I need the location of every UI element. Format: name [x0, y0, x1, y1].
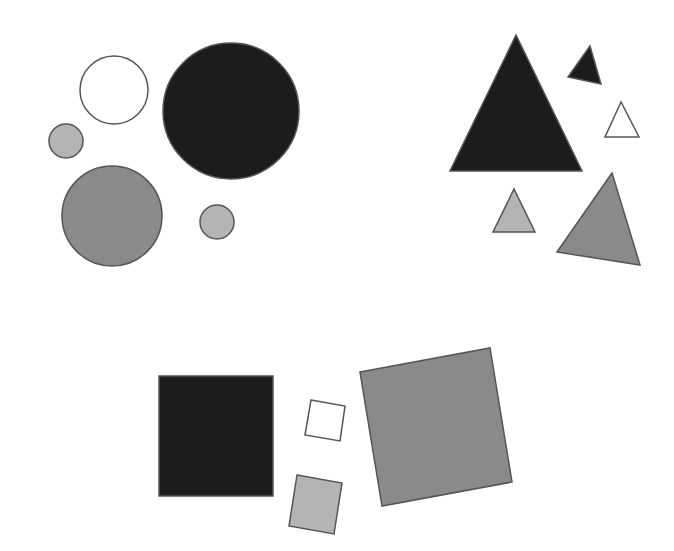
gray-square-shape [360, 348, 512, 506]
white-circle-shape [80, 56, 148, 124]
black-circle-shape [163, 43, 299, 179]
black-square-shape [159, 376, 273, 496]
white-square-shape [305, 400, 345, 441]
circles-group [49, 43, 299, 266]
squares-group [159, 348, 512, 534]
shapes-diagram [0, 0, 674, 551]
gray-triangle-shape [557, 173, 640, 265]
light-gray-triangle-shape [493, 189, 535, 232]
light-gray-square-shape [289, 475, 342, 534]
black-triangle-shape [568, 46, 601, 84]
black-triangle-shape [450, 35, 582, 171]
triangles-group [450, 35, 640, 265]
gray-circle-shape [62, 166, 162, 266]
light-gray-circle-shape [200, 205, 234, 239]
white-triangle-shape [605, 102, 639, 137]
light-gray-circle-shape [49, 124, 83, 158]
